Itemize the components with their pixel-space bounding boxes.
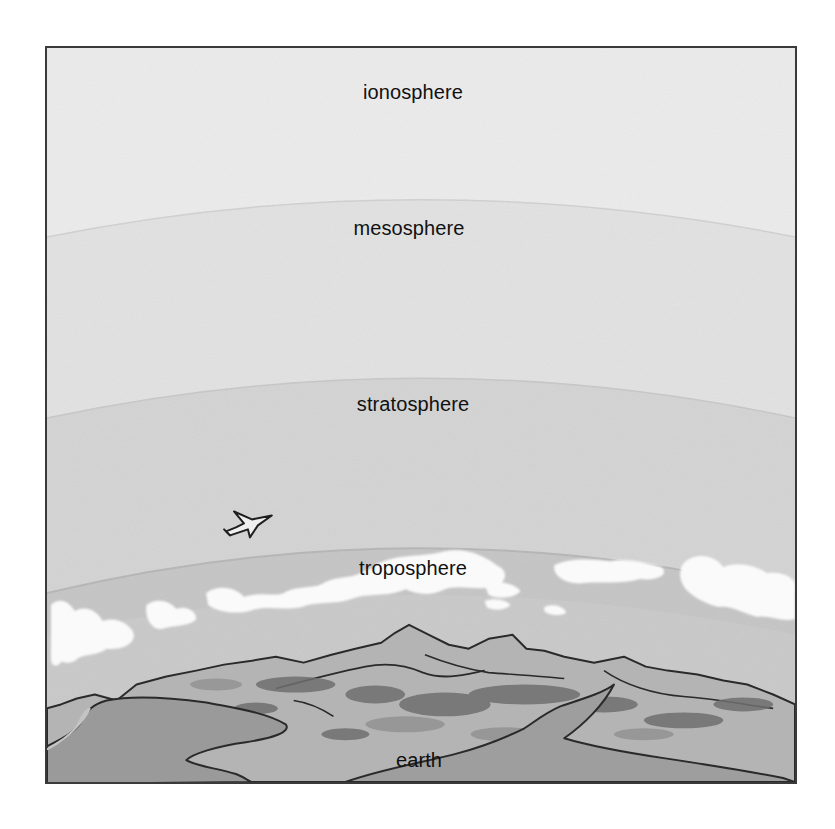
label-troposphere: troposphere <box>359 558 467 578</box>
diagram-canvas <box>47 48 795 782</box>
atmosphere-diagram: ionosphere mesosphere stratosphere tropo… <box>45 46 797 784</box>
label-ionosphere: ionosphere <box>363 82 463 102</box>
label-mesosphere: mesosphere <box>353 218 464 238</box>
label-stratosphere: stratosphere <box>357 394 469 414</box>
label-earth: earth <box>396 750 442 770</box>
